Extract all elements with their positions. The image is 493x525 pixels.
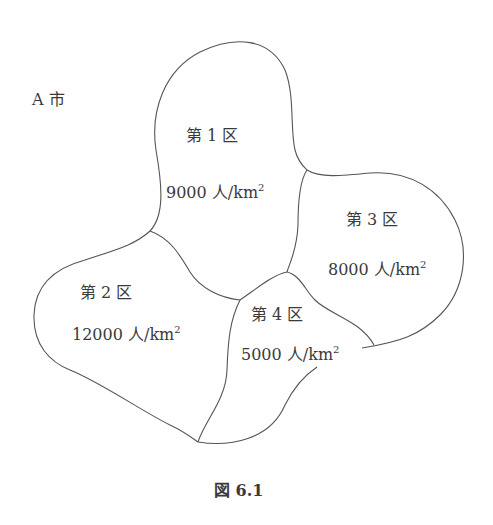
district-3-density: 8000 人/km2	[328, 260, 426, 278]
district-2-density: 12000 人/km2	[72, 325, 181, 343]
boundary-1-3	[287, 170, 307, 272]
district-3-boundary	[307, 170, 463, 348]
boundary-2-4	[198, 300, 240, 442]
district-4-boundary	[198, 367, 317, 443]
city-label: A 市	[32, 92, 65, 108]
boundary-1-4	[240, 272, 287, 300]
district-1-density: 9000 人/km2	[166, 183, 264, 201]
boundary-1-2	[150, 231, 240, 300]
district-3-name: 第 3 区	[346, 212, 398, 228]
district-1-name: 第 1 区	[186, 128, 238, 144]
district-2-name: 第 2 区	[80, 285, 132, 301]
district-4-density: 5000 人/km2	[241, 345, 339, 363]
figure-caption: 図 6.1	[214, 477, 263, 501]
district-4-name: 第 4 区	[251, 307, 303, 323]
